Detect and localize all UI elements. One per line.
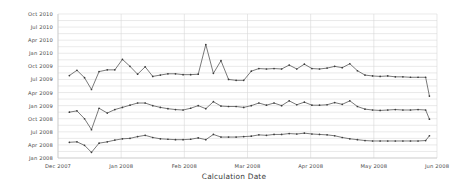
data-point xyxy=(311,104,313,106)
data-point xyxy=(122,59,124,61)
data-point xyxy=(429,118,431,120)
data-point xyxy=(98,142,100,144)
data-point xyxy=(425,140,427,142)
data-point xyxy=(220,105,222,107)
data-point xyxy=(84,118,86,120)
data-point xyxy=(76,69,78,71)
data-point xyxy=(69,111,71,113)
data-point xyxy=(228,106,230,108)
data-point xyxy=(175,139,177,141)
data-point xyxy=(334,135,336,137)
y-tick-label-10: Jul 2010 xyxy=(8,24,53,30)
data-point xyxy=(319,134,321,136)
data-point xyxy=(114,139,116,141)
data-point xyxy=(205,139,207,141)
data-point xyxy=(250,105,252,107)
data-point xyxy=(220,60,222,62)
data-point xyxy=(357,70,359,72)
data-point xyxy=(250,70,252,72)
data-point xyxy=(175,109,177,111)
data-point xyxy=(98,71,100,73)
data-point xyxy=(235,79,237,81)
data-point xyxy=(387,75,389,77)
data-point xyxy=(266,68,268,70)
data-point xyxy=(243,79,245,81)
data-point xyxy=(379,76,381,78)
data-point xyxy=(152,137,154,139)
data-point xyxy=(273,68,275,70)
data-point xyxy=(129,138,131,140)
data-point xyxy=(410,76,412,78)
data-point xyxy=(349,63,351,65)
data-point xyxy=(334,102,336,104)
data-point xyxy=(235,136,237,138)
data-point xyxy=(91,151,93,153)
data-point xyxy=(144,66,146,68)
data-point xyxy=(364,74,366,76)
data-point xyxy=(213,101,215,103)
data-point xyxy=(319,68,321,70)
data-point xyxy=(159,107,161,109)
data-point xyxy=(106,112,108,114)
data-point xyxy=(429,95,431,97)
data-point xyxy=(311,68,313,70)
data-point xyxy=(91,89,93,91)
x-tick-label-2: Feb 2008 xyxy=(172,163,197,169)
data-point xyxy=(304,101,306,103)
data-point xyxy=(281,105,283,107)
data-point xyxy=(137,102,139,104)
data-point xyxy=(296,133,298,135)
data-point xyxy=(190,138,192,140)
data-point xyxy=(288,133,290,135)
data-point xyxy=(91,129,93,131)
data-point xyxy=(304,132,306,134)
data-point xyxy=(326,134,328,136)
x-tick-label-0: Dec 2007 xyxy=(45,163,71,169)
data-point xyxy=(114,69,116,71)
data-point xyxy=(167,138,169,140)
data-point xyxy=(122,138,124,140)
data-point xyxy=(182,139,184,141)
data-point xyxy=(394,76,396,78)
x-tick-label-1: Jan 2008 xyxy=(109,163,133,169)
data-point xyxy=(220,136,222,138)
chart-plot-area xyxy=(0,0,468,185)
data-point xyxy=(137,73,139,75)
x-axis-title: Calculation Date xyxy=(0,172,468,181)
data-point xyxy=(167,108,169,110)
data-point xyxy=(417,140,419,142)
data-point xyxy=(273,102,275,104)
y-tick-label-9: Apr 2010 xyxy=(8,37,53,43)
x-tick-label-3: Mar 2008 xyxy=(235,163,261,169)
data-point xyxy=(281,134,283,136)
data-point xyxy=(387,140,389,142)
data-point xyxy=(425,76,427,78)
data-point xyxy=(429,135,431,137)
data-point xyxy=(326,67,328,69)
data-point xyxy=(228,79,230,81)
data-point xyxy=(205,44,207,46)
data-point xyxy=(417,76,419,78)
y-tick-label-0: Jan 2008 xyxy=(8,155,53,161)
data-point xyxy=(76,110,78,112)
data-point xyxy=(410,140,412,142)
data-point xyxy=(159,138,161,140)
data-point xyxy=(341,67,343,69)
data-point xyxy=(387,109,389,111)
data-point xyxy=(190,107,192,109)
data-point xyxy=(266,134,268,136)
data-point xyxy=(288,64,290,66)
chart-container: Jan 2008Apr 2008Jul 2008Oct 2008Jan 2009… xyxy=(0,0,468,185)
data-point xyxy=(167,73,169,75)
data-point xyxy=(122,107,124,109)
data-point xyxy=(129,66,131,68)
y-tick-label-3: Oct 2008 xyxy=(8,116,53,122)
data-point xyxy=(273,134,275,136)
data-point xyxy=(250,135,252,137)
data-point xyxy=(98,107,100,109)
y-tick-label-11: Oct 2010 xyxy=(8,11,53,17)
data-point xyxy=(182,74,184,76)
data-point xyxy=(394,109,396,111)
data-point xyxy=(402,76,404,78)
data-point xyxy=(402,109,404,111)
